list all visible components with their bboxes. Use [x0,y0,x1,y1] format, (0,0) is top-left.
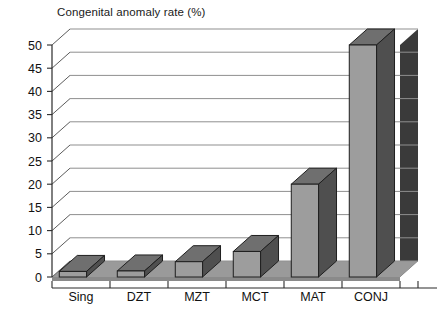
y-tick-label: 5 [35,247,42,261]
plot-right-wall [400,29,418,277]
y-tick-label: 10 [28,224,42,238]
bar-front-face [349,45,376,277]
chart-container: Congenital anomaly rate (%) [0,0,437,318]
x-tick-label: MAT [300,290,326,304]
y-axis-ticks [47,45,52,277]
x-tick-label: Sing [68,290,93,304]
y-tick-label: 30 [28,131,42,145]
bar-front-face [233,251,260,277]
bar-conj [349,29,394,277]
x-tick-label: CONJ [354,290,388,304]
plot-floor-front [52,277,400,281]
y-tick-label: 50 [28,39,42,53]
y-tick-label: 15 [28,201,42,215]
bar-mat [291,168,336,277]
y-tick-label: 45 [28,62,42,76]
bar-side-face [319,168,337,277]
bar-front-face [117,271,144,277]
y-tick-label: 35 [28,108,42,122]
bar-front-face [175,262,202,277]
bar-side-face [377,29,395,277]
axis-depth-connectors [52,29,70,277]
bar-front-face [59,271,86,277]
x-tick-label: MCT [241,290,268,304]
x-tick-label: DZT [127,290,152,304]
y-tick-label: 0 [35,271,42,285]
y-axis-tick-labels: 50 45 40 35 30 25 20 15 10 5 0 [28,39,42,285]
y-tick-label: 40 [28,85,42,99]
x-tick-label: MZT [184,290,210,304]
y-tick-label: 20 [28,178,42,192]
chart-plot-area: 50 45 40 35 30 25 20 15 10 5 0 SingDZTMZ… [0,0,437,318]
x-axis-ticks [52,281,418,288]
y-tick-label: 25 [28,155,42,169]
x-axis-tick-labels: SingDZTMZTMCTMATCONJ [68,290,388,304]
bar-front-face [291,184,318,277]
